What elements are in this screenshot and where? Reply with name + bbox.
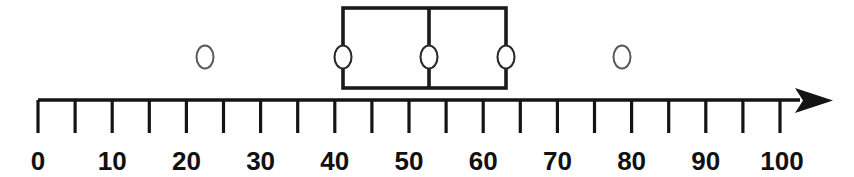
tick-label-0: 0 — [31, 146, 45, 176]
boxplot-figure: 0 10 20 30 40 50 60 70 80 90 100 — [0, 0, 854, 177]
boxplot-median-marker — [421, 46, 438, 69]
axis-arrow-icon — [795, 88, 833, 113]
boxplot-group — [335, 8, 515, 88]
tick-label-40: 40 — [320, 146, 349, 176]
boxplot-q1-marker — [335, 46, 352, 69]
number-line-axis: 0 10 20 30 40 50 60 70 80 90 100 — [31, 88, 833, 176]
outlier-marker-left — [197, 46, 214, 69]
outlier-group — [197, 46, 631, 69]
tick-label-60: 60 — [469, 146, 498, 176]
tick-label-30: 30 — [246, 146, 275, 176]
boxplot-q3-marker — [498, 46, 515, 69]
axis-tick-labels: 0 10 20 30 40 50 60 70 80 90 100 — [31, 146, 804, 176]
tick-label-90: 90 — [691, 146, 720, 176]
tick-label-50: 50 — [395, 146, 424, 176]
tick-label-70: 70 — [543, 146, 572, 176]
tick-label-80: 80 — [617, 146, 646, 176]
axis-ticks — [38, 100, 780, 133]
tick-label-20: 20 — [172, 146, 201, 176]
tick-label-100: 100 — [760, 146, 803, 176]
tick-label-10: 10 — [98, 146, 127, 176]
boxplot-svg: 0 10 20 30 40 50 60 70 80 90 100 — [0, 0, 854, 177]
outlier-marker-right — [614, 46, 631, 69]
